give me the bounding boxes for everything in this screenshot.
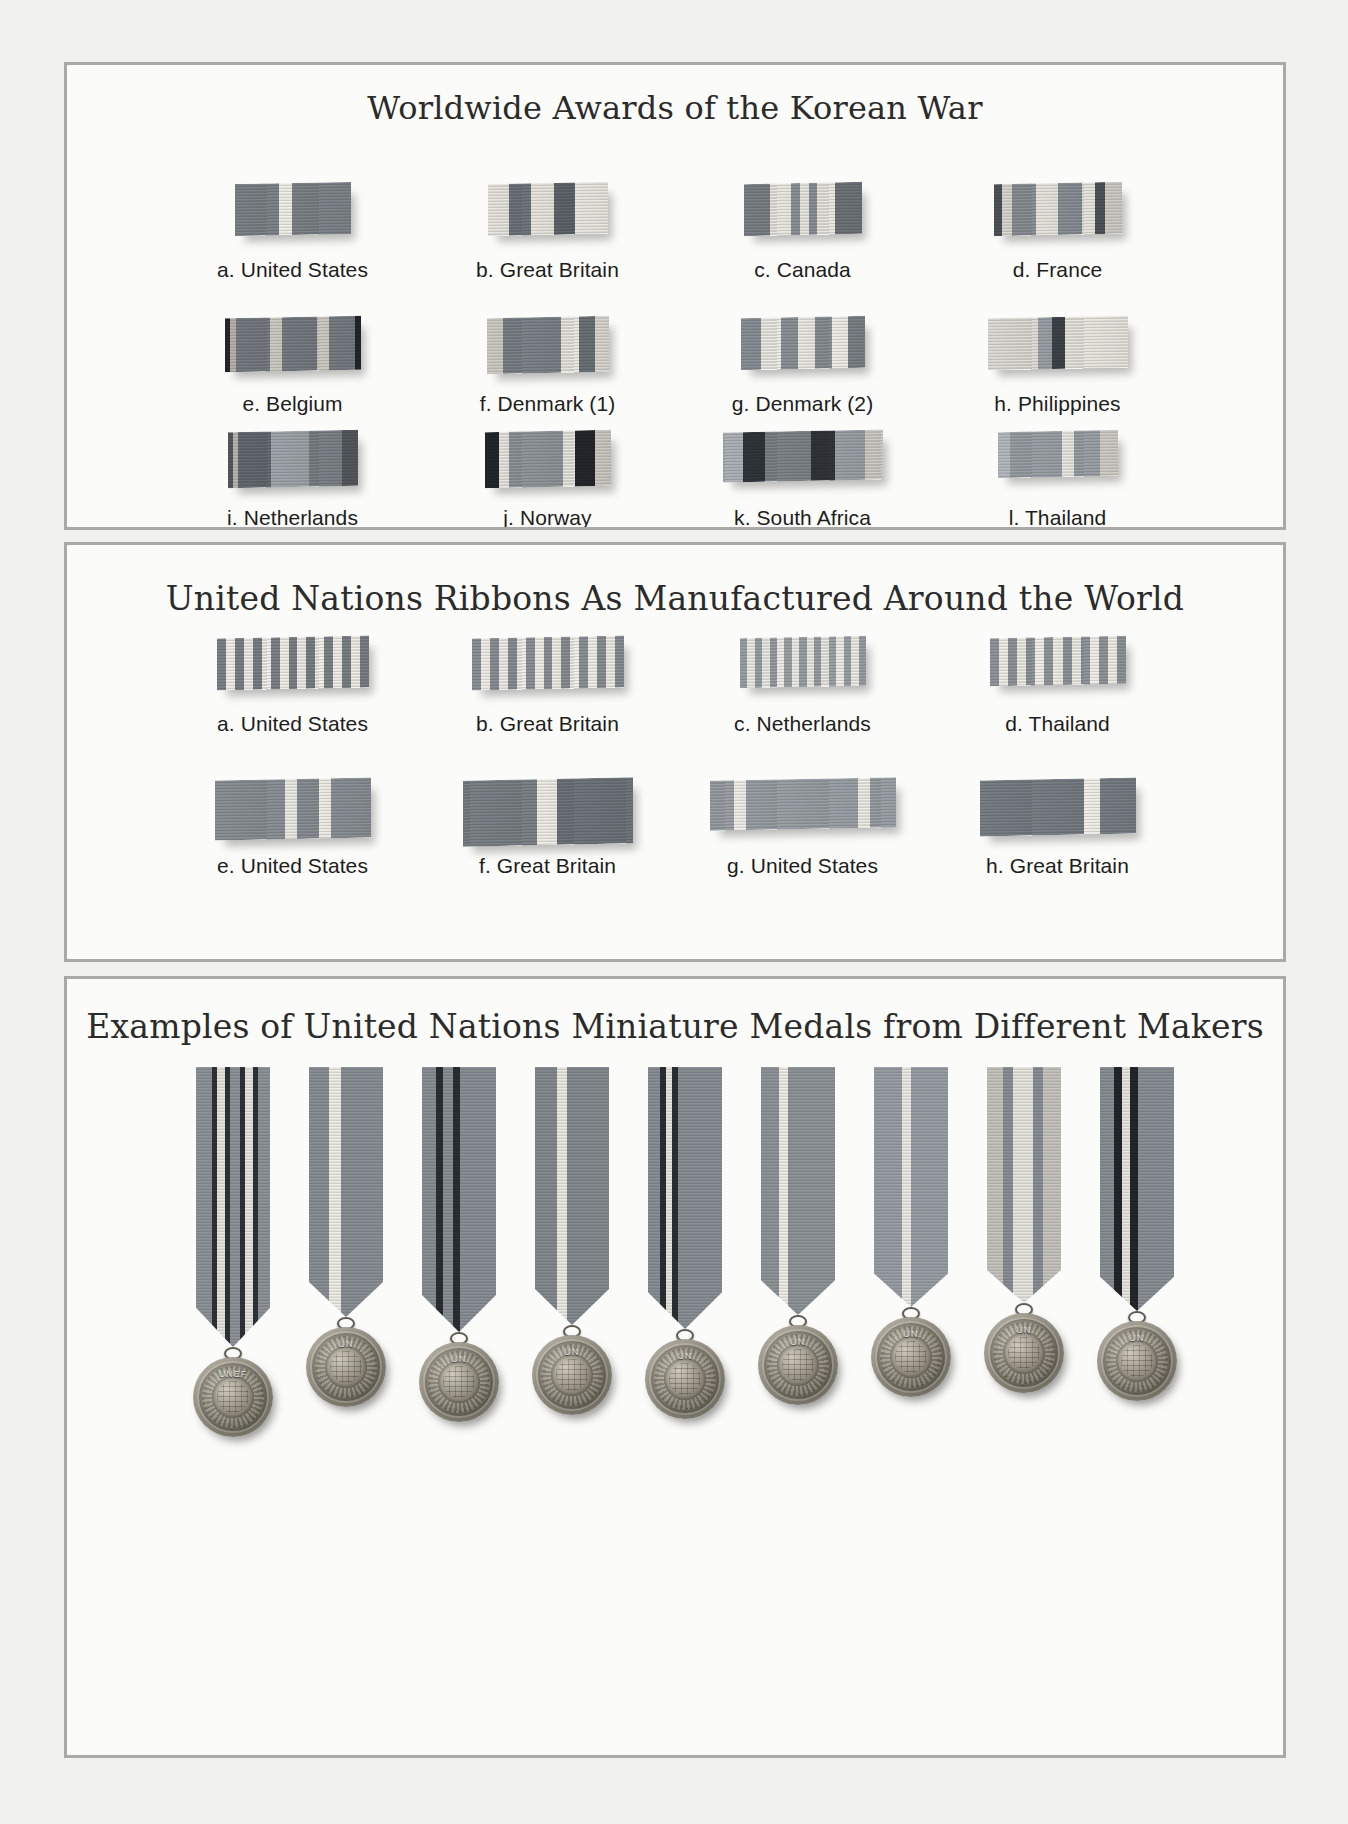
- ribbon-stripe: [509, 183, 531, 235]
- section-title-un-ribbons: United Nations Ribbons As Manufactured A…: [67, 579, 1283, 618]
- ribbon-stripe: [228, 432, 233, 488]
- ribbon-stripe: [225, 638, 234, 690]
- ribbon-label: h. Great Britain: [986, 854, 1129, 878]
- ribbon-stripe: [472, 638, 481, 690]
- ribbon-swatch: [723, 429, 883, 482]
- ribbon-stripe: [499, 432, 509, 488]
- un-globe-icon: [664, 1358, 706, 1400]
- ribbon-stripe: [606, 636, 615, 688]
- ribbon-image: [930, 637, 1185, 703]
- medal-disc: UN: [871, 1317, 951, 1397]
- ribbon-stripe: [217, 638, 226, 690]
- ribbon-stripe: [999, 638, 1008, 686]
- ribbon-weave-texture: [874, 1067, 948, 1307]
- korean-war-ribbon-item[interactable]: c. Canada: [675, 183, 930, 282]
- ribbon-stripe: [832, 316, 848, 368]
- medal-5[interactable]: UN: [637, 1067, 733, 1419]
- ribbon-stripe: [1084, 778, 1100, 834]
- ribbon-stripe: [1012, 183, 1036, 235]
- korean-war-ribbon-item[interactable]: a. United States: [165, 183, 420, 282]
- medal-caption: UN: [306, 1339, 386, 1349]
- ribbon-stripe: [1052, 317, 1065, 369]
- ribbon-stripe: [1107, 636, 1116, 684]
- un-ribbon-item[interactable]: c. Netherlands: [675, 637, 930, 736]
- un-ribbon-item[interactable]: g. United States: [675, 779, 930, 878]
- ribbon-stripe: [1100, 430, 1118, 476]
- ribbon-stripe: [360, 636, 369, 688]
- ribbon-stripe: [329, 316, 355, 370]
- ribbon-swatch: [741, 316, 865, 370]
- ribbon-stripe: [798, 317, 815, 369]
- ribbon-stripe: [1082, 182, 1095, 234]
- medal-1[interactable]: UNEF: [185, 1067, 281, 1437]
- ribbon-stripe: [463, 779, 537, 846]
- medal-6[interactable]: UN: [750, 1067, 846, 1405]
- medal-ribbon: [535, 1067, 609, 1325]
- medal-8[interactable]: UN: [976, 1067, 1072, 1393]
- korean-war-ribbon-item[interactable]: f. Denmark (1): [420, 317, 675, 416]
- ribbon-stripe: [498, 638, 507, 690]
- medal-disc: UNEF: [193, 1357, 273, 1437]
- medal-9[interactable]: UN: [1089, 1067, 1185, 1401]
- panel-korean-war: Worldwide Awards of the Korean War a. Un…: [64, 62, 1286, 530]
- ribbon-image: [675, 779, 930, 845]
- korean-war-ribbon-item[interactable]: g. Denmark (2): [675, 317, 930, 416]
- korean-war-ribbon-item[interactable]: h. Philippines: [930, 317, 1185, 416]
- medal-disc: UN: [984, 1313, 1064, 1393]
- ribbon-stripe: [315, 636, 324, 688]
- ribbon-stripe: [563, 430, 575, 486]
- ribbon-weave-texture: [422, 1067, 496, 1332]
- ribbon-image: [675, 637, 930, 703]
- ribbon-stripe: [507, 638, 516, 690]
- medal-2[interactable]: UN: [298, 1067, 394, 1407]
- korean-war-ribbon-item[interactable]: d. France: [930, 183, 1185, 282]
- ribbon-label: f. Great Britain: [479, 854, 616, 878]
- ribbon-swatch: [472, 636, 624, 691]
- ribbon-stripe: [741, 318, 761, 370]
- ribbon-stripe: [588, 636, 597, 688]
- ribbon-image: [165, 317, 420, 383]
- ribbon-stripe: [282, 317, 317, 372]
- ribbon-row-kw-1: a. United Statesb. Great Britainc. Canad…: [67, 183, 1283, 282]
- ribbon-stripe: [579, 636, 588, 688]
- medal-caption: UN: [871, 1329, 951, 1339]
- un-ribbon-item[interactable]: e. United States: [165, 779, 420, 878]
- ribbon-stripe: [252, 638, 261, 690]
- ribbon-label: a. United States: [217, 258, 368, 282]
- medal-disc: UN: [532, 1335, 612, 1415]
- medal-3[interactable]: UN: [411, 1067, 507, 1422]
- ribbon-stripe: [1095, 182, 1105, 234]
- ribbon-stripe: [279, 183, 292, 235]
- un-ribbon-item[interactable]: h. Great Britain: [930, 779, 1185, 878]
- korean-war-ribbon-item[interactable]: b. Great Britain: [420, 183, 675, 282]
- korean-war-ribbon-item[interactable]: e. Belgium: [165, 317, 420, 416]
- ribbon-stripe: [791, 183, 800, 235]
- ribbon-swatch: [235, 182, 351, 236]
- ribbon-stripe: [324, 636, 333, 688]
- ribbon-stripe: [835, 430, 865, 481]
- korean-war-ribbon-item[interactable]: i. Netherlands: [165, 431, 420, 527]
- ribbon-stripe: [754, 638, 761, 688]
- ribbon-stripe: [710, 780, 734, 830]
- ribbon-stripe: [734, 780, 746, 830]
- ribbon-stripe: [762, 638, 769, 688]
- medal-4[interactable]: UN: [524, 1067, 620, 1415]
- medal-7[interactable]: UN: [863, 1067, 959, 1397]
- un-ribbon-item[interactable]: a. United States: [165, 637, 420, 736]
- ribbon-stripe: [243, 638, 252, 690]
- ribbon-swatch: [998, 430, 1118, 478]
- ribbon-stripe: [1116, 636, 1125, 684]
- ribbon-swatch: [487, 316, 609, 374]
- ribbon-stripe: [743, 432, 765, 482]
- ribbon-weave-texture: [1100, 1067, 1174, 1311]
- ribbon-image: [420, 183, 675, 249]
- un-ribbon-item[interactable]: f. Great Britain: [420, 779, 675, 878]
- medal-disc: UN: [758, 1325, 838, 1405]
- ribbon-stripe: [1074, 430, 1100, 476]
- korean-war-ribbon-item[interactable]: l. Thailand: [930, 431, 1185, 527]
- korean-war-ribbon-item[interactable]: j. Norway: [420, 431, 675, 527]
- un-ribbon-item[interactable]: d. Thailand: [930, 637, 1185, 736]
- korean-war-ribbon-item[interactable]: k. South Africa: [675, 431, 930, 527]
- un-ribbon-item[interactable]: b. Great Britain: [420, 637, 675, 736]
- ribbon-stripe: [848, 316, 865, 368]
